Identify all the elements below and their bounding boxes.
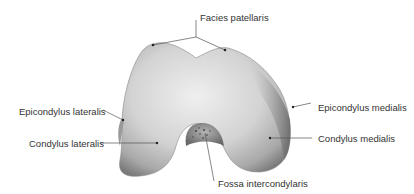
- leader-epicondylus-medialis: [293, 103, 311, 107]
- label-facies-patellaris: Facies patellaris: [200, 12, 269, 23]
- label-fossa-intercondylaris: Fossa intercondylaris: [218, 178, 308, 189]
- leader-epicondylus-lateralis: [103, 110, 123, 120]
- label-epicondylus-lateralis: Epicondylus lateralis: [19, 106, 106, 117]
- label-condylus-medialis: Condylus medialis: [318, 133, 395, 144]
- anatomy-diagram: Facies patellaris Epicondylus lateralis …: [0, 0, 414, 194]
- label-condylus-lateralis: Condylus lateralis: [29, 138, 104, 149]
- femur-bone: [118, 43, 290, 177]
- femur-illustration: [0, 0, 414, 194]
- label-epicondylus-medialis: Epicondylus medialis: [318, 102, 407, 113]
